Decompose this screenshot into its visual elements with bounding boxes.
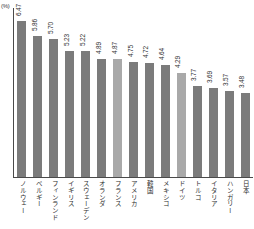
bar-value-label: 5.22 [79,34,86,46]
bar-slot: 4.72 [142,8,158,177]
category-label: ハンガリー [225,180,233,214]
bar-value-label: 5.23 [63,34,70,46]
category-label: イタリア [209,180,217,207]
category-label: メキシコ [162,180,170,207]
bar[interactable]: 5.70 [49,39,58,177]
category-slot: ベルギー [30,180,46,228]
bar-slot: 3.69 [205,8,221,177]
bar-value-label: 4.87 [111,42,118,54]
category-slot: オランダ [94,180,110,228]
bar-slot: 4.64 [157,8,173,177]
bar[interactable]: 4.87 [113,59,122,177]
category-slot: ハンガリー [221,180,237,228]
category-label: ドイツ [178,180,186,200]
bar-slot: 5.22 [78,8,94,177]
category-label: ノルウェー [18,180,26,214]
bar-value-label: 6.47 [15,4,22,16]
bar-value-label: 4.75 [127,45,134,57]
bar-chart: (%) 6.475.865.705.235.224.894.874.754.72… [0,0,254,229]
category-slot: フランス [110,180,126,228]
category-slot: ドイツ [173,180,189,228]
category-label: 日本 [241,180,249,194]
category-label: フィンランド [50,180,58,221]
category-label: イギリス [66,180,74,207]
bar-value-label: 3.48 [238,76,245,88]
bar[interactable]: 4.72 [145,63,154,177]
bar-slot: 3.48 [237,8,253,177]
bar-value-label: 3.69 [206,71,213,83]
bar-slot: 5.86 [30,8,46,177]
x-axis-line [13,177,253,178]
bar[interactable]: 4.64 [161,65,170,177]
bar-slot: 4.75 [126,8,142,177]
bar-value-label: 3.57 [222,74,229,86]
category-slot: アメリカ [126,180,142,228]
category-slot: メキシコ [157,180,173,228]
y-axis-unit-label: (%) [1,2,9,10]
bar[interactable]: 4.89 [97,59,106,177]
category-label: ベルギー [34,180,42,207]
category-axis-labels: ノルウェーベルギーフィンランドイギリススウェーデンオランダフランスアメリカ韓国メ… [14,180,253,228]
category-slot: イタリア [205,180,221,228]
bar[interactable]: 6.47 [17,21,26,177]
category-slot: フィンランド [46,180,62,228]
bar[interactable]: 3.77 [193,86,202,177]
bar-value-label: 4.89 [95,42,102,54]
category-label: トルコ [194,180,202,200]
category-label: アメリカ [130,180,138,207]
bar[interactable]: 3.48 [241,93,250,177]
bar-slot: 5.70 [46,8,62,177]
bar-value-label: 4.29 [174,57,181,69]
bar-slot: 4.87 [110,8,126,177]
plot-area: 6.475.865.705.235.224.894.874.754.724.64… [14,8,253,177]
bar[interactable]: 5.22 [81,51,90,177]
bar-value-label: 5.70 [47,22,54,34]
category-slot: 日本 [237,180,253,228]
category-slot: イギリス [62,180,78,228]
category-slot: スウェーデン [78,180,94,228]
bar[interactable]: 4.29 [177,73,186,177]
bar-slot: 4.29 [173,8,189,177]
category-label: スウェーデン [82,180,90,221]
bar-slot: 3.77 [189,8,205,177]
bar-slot: 3.57 [221,8,237,177]
category-slot: ノルウェー [14,180,30,228]
bar-value-label: 5.86 [31,19,38,31]
bar-slot: 5.23 [62,8,78,177]
category-label: オランダ [98,180,106,207]
category-slot: トルコ [189,180,205,228]
category-label: 韓国 [146,180,154,194]
bar[interactable]: 5.23 [65,51,74,177]
bar[interactable]: 3.57 [225,91,234,177]
bar-slot: 6.47 [14,8,30,177]
bar[interactable]: 4.75 [129,62,138,177]
bar-value-label: 4.64 [158,48,165,60]
bar-value-label: 4.72 [142,46,149,58]
category-label: フランス [114,180,122,207]
bar[interactable]: 3.69 [209,88,218,177]
bar[interactable]: 5.86 [33,36,42,177]
bar-value-label: 3.77 [190,69,197,81]
category-slot: 韓国 [142,180,158,228]
bar-slot: 4.89 [94,8,110,177]
